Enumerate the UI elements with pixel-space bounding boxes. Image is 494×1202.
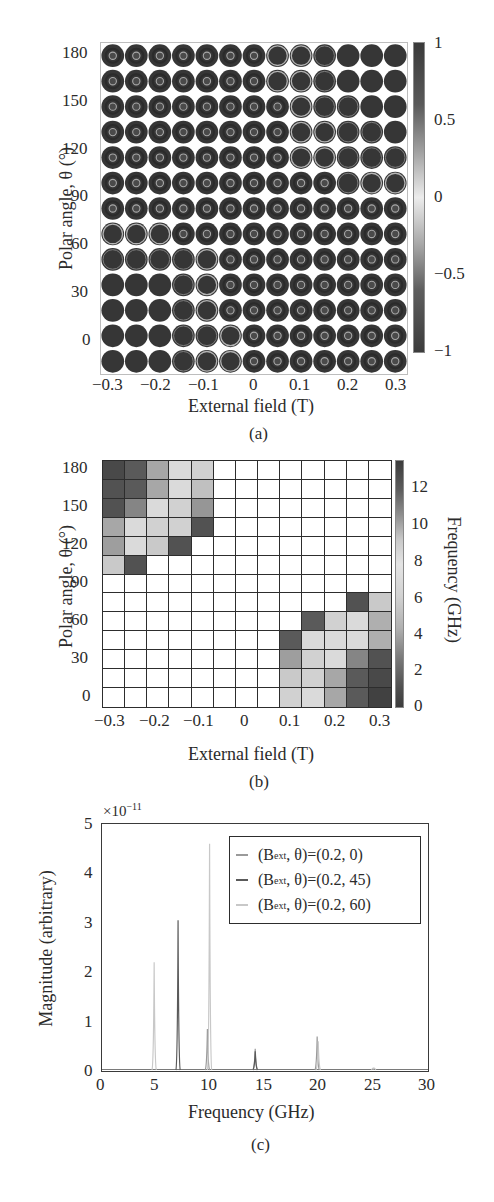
disk-cell <box>360 172 383 195</box>
heatmap-cell <box>369 575 391 594</box>
heatmap-cell <box>147 631 169 650</box>
disk-cell <box>360 274 383 297</box>
disk-cell <box>313 274 336 297</box>
y-tick: 1 <box>84 1013 93 1030</box>
disk-cell <box>196 248 219 271</box>
disk-cell <box>360 248 383 271</box>
disk-cell <box>101 95 124 118</box>
heatmap-cell <box>280 556 302 575</box>
heatmap-cell <box>214 499 236 518</box>
heatmap-cell <box>125 688 147 707</box>
disk-cell <box>360 223 383 246</box>
disk-cell <box>148 146 171 169</box>
heatmap-cell <box>347 499 369 518</box>
disk-cell <box>384 95 407 118</box>
heatmap-cell <box>169 631 191 650</box>
heatmap-cell <box>280 669 302 688</box>
heatmap-cell <box>236 461 258 480</box>
heatmap-cell <box>192 461 214 480</box>
heatmap-cell <box>169 518 191 537</box>
disk-cell <box>266 197 289 220</box>
disk-cell <box>219 172 242 195</box>
x-tick: 30 <box>418 1076 435 1093</box>
heatmap-cell <box>192 631 214 650</box>
heatmap-cell <box>147 537 169 556</box>
disk-cell <box>313 299 336 322</box>
disk-cell <box>101 324 124 347</box>
disk-cell <box>148 299 171 322</box>
spectrum-peak <box>207 844 211 1070</box>
disk-cell <box>266 324 289 347</box>
disk-cell <box>337 324 360 347</box>
heatmap-cell <box>369 480 391 499</box>
heatmap-cell <box>369 518 391 537</box>
y-tick: 3 <box>84 914 93 931</box>
disk-cell <box>196 44 219 67</box>
disk-cell <box>384 70 407 93</box>
disk-cell <box>360 299 383 322</box>
disk-cell <box>148 172 171 195</box>
y-tick: 150 <box>62 92 88 109</box>
heatmap-cell <box>214 593 236 612</box>
heatmap-cell <box>147 575 169 594</box>
heatmap-cell <box>280 575 302 594</box>
disk-cell <box>290 172 313 195</box>
disk-cell <box>243 121 266 144</box>
heatmap-cell <box>369 461 391 480</box>
disk-cell <box>148 44 171 67</box>
heatmap-cell <box>103 518 125 537</box>
heatmap-cell <box>280 499 302 518</box>
heatmap-cell <box>325 593 347 612</box>
disk-cell <box>313 350 336 373</box>
y-tick: 90 <box>71 187 88 204</box>
heatmap-cell <box>192 499 214 518</box>
disk-cell <box>172 95 195 118</box>
heatmap-cell <box>103 575 125 594</box>
disk-cell <box>125 223 148 246</box>
y-tick: 0 <box>84 1062 93 1079</box>
heatmap-cell <box>192 537 214 556</box>
heatmap-cell <box>214 669 236 688</box>
disk-cell <box>125 299 148 322</box>
heatmap-cell <box>236 499 258 518</box>
disk-cell <box>196 197 219 220</box>
heatmap-cell <box>280 612 302 631</box>
disk-cell <box>313 95 336 118</box>
legend-swatch-theta-45 <box>236 879 248 881</box>
disk-cell <box>148 70 171 93</box>
heatmap-cell <box>236 556 258 575</box>
disk-cell <box>243 223 266 246</box>
x-tick: 25 <box>364 1076 381 1093</box>
x-tick: 0.3 <box>369 712 390 729</box>
heatmap-cell <box>214 480 236 499</box>
disk-cell <box>125 70 148 93</box>
disk-cell <box>243 197 266 220</box>
disk-cell <box>337 274 360 297</box>
disk-cell <box>360 324 383 347</box>
colorbar-tick: 1 <box>434 34 443 51</box>
heatmap-cell <box>169 593 191 612</box>
heatmap-cell <box>347 575 369 594</box>
y-tick: 30 <box>71 649 88 666</box>
colorbar-tick: 6 <box>414 589 423 606</box>
disk-cell <box>219 70 242 93</box>
disk-cell <box>290 350 313 373</box>
heatmap-cell <box>347 669 369 688</box>
disk-cell <box>196 274 219 297</box>
heatmap-cell <box>280 537 302 556</box>
heatmap-cell <box>347 612 369 631</box>
x-tick: −0.3 <box>94 712 125 729</box>
heatmap-cell <box>169 461 191 480</box>
heatmap-cell <box>325 461 347 480</box>
disk-cell <box>125 324 148 347</box>
heatmap-cell <box>347 480 369 499</box>
disk-cell <box>290 44 313 67</box>
disk-cell <box>101 70 124 93</box>
heatmap-cell <box>125 499 147 518</box>
disk-cell <box>172 299 195 322</box>
heatmap-cell <box>236 518 258 537</box>
y-tick: 120 <box>62 140 88 157</box>
x-tick: 0 <box>249 376 258 393</box>
disk-cell <box>172 44 195 67</box>
disk-cell <box>360 44 383 67</box>
